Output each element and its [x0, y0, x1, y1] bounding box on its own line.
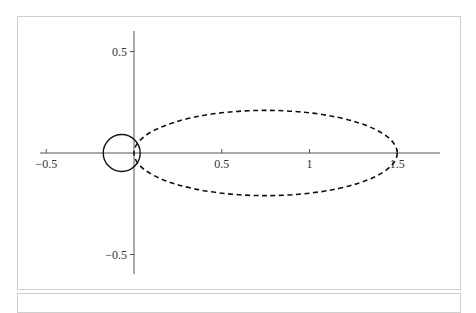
- y-tick-label: −0.5: [105, 248, 127, 262]
- x-tick-label: 1: [307, 157, 313, 171]
- x-ticks: −0.50.511.5: [35, 149, 404, 171]
- y-tick-label: 0.5: [112, 45, 127, 59]
- x-tick-label: 0.5: [214, 157, 229, 171]
- x-tick-label: −0.5: [35, 157, 57, 171]
